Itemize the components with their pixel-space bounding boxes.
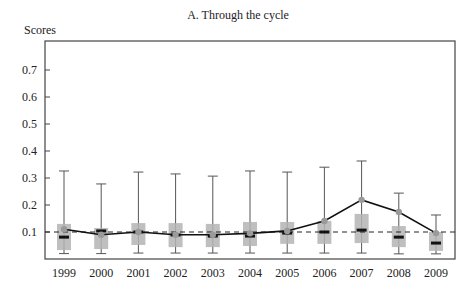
y-tick-label: 0.7: [22, 63, 37, 77]
box-plot: 0.10.20.30.40.50.60.71999200020012002200…: [0, 0, 476, 296]
x-tick-label: 2003: [201, 266, 225, 280]
median-marker: [431, 242, 441, 245]
y-tick-label: 0.6: [22, 90, 37, 104]
median-marker: [394, 236, 404, 239]
y-tick-label: 0.5: [22, 117, 37, 131]
mean-marker: [61, 226, 67, 232]
mean-marker: [135, 229, 141, 235]
mean-marker: [433, 230, 439, 236]
x-tick-label: 1999: [52, 266, 76, 280]
mean-marker: [247, 230, 253, 236]
x-tick-label: 2008: [387, 266, 411, 280]
mean-marker: [210, 232, 216, 238]
mean-marker: [98, 232, 104, 238]
mean-marker: [284, 228, 290, 234]
median-marker: [59, 236, 69, 239]
median-marker: [357, 229, 367, 232]
x-tick-label: 2005: [275, 266, 299, 280]
y-tick-label: 0.4: [22, 144, 37, 158]
y-tick-label: 0.2: [22, 198, 37, 212]
median-marker: [319, 231, 329, 234]
x-tick-label: 2002: [164, 266, 188, 280]
mean-marker: [358, 197, 364, 203]
y-tick-label: 0.1: [22, 225, 37, 239]
mean-marker: [172, 232, 178, 238]
x-tick-label: 2001: [126, 266, 150, 280]
y-tick-label: 0.3: [22, 171, 37, 185]
x-tick-label: 2009: [424, 266, 448, 280]
iqr-box: [355, 214, 369, 243]
x-tick-label: 2004: [238, 266, 262, 280]
x-tick-label: 2006: [312, 266, 336, 280]
mean-marker: [321, 218, 327, 224]
mean-marker: [396, 209, 402, 215]
x-tick-label: 2007: [350, 266, 374, 280]
x-tick-label: 2000: [89, 266, 113, 280]
